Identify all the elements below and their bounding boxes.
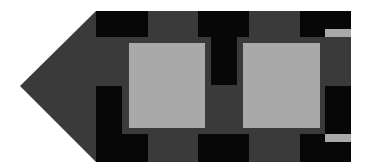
bar-bottom-right [325, 134, 351, 142]
block-top-left [96, 11, 148, 37]
block-t-top [198, 11, 249, 37]
block-t-stem [211, 37, 237, 85]
bar-top-right [325, 29, 351, 37]
arrow-shape [0, 0, 374, 164]
light-square-right [243, 43, 320, 128]
light-square-left [129, 43, 205, 128]
arrow-figure [0, 0, 374, 164]
block-right-vertical [325, 86, 351, 134]
block-bottom-left [96, 134, 148, 162]
block-bottom-center [198, 134, 249, 162]
